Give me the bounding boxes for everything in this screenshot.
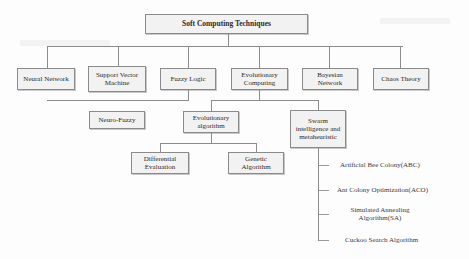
leaf-artificial-bee-colony: Artificial Bee Colony(ABC) [340, 161, 420, 169]
node-genetic-algorithm: Genetic Algorithm [228, 152, 284, 174]
list-tick [319, 214, 329, 215]
connector-line [160, 143, 161, 152]
leaf-cuckoo-search: Cuckoo Search Algorithm [345, 236, 418, 244]
node-differential-evaluation: Differential Evaluation [131, 152, 189, 174]
connector-line [188, 90, 189, 100]
connector-line [47, 46, 48, 68]
node-swarm-intelligence: Swarm intelligence and metaheuristic [290, 110, 346, 148]
node-chaos-theory: Chaos Theory [373, 68, 429, 90]
connector-line [188, 46, 189, 68]
background-text-fragment [380, 18, 450, 24]
node-evolutionary-computing: Evolutionary Computing [231, 68, 288, 90]
connector-line [400, 46, 401, 68]
connector-line [329, 46, 330, 68]
connector-line [118, 46, 119, 68]
list-tick [319, 240, 329, 241]
connector-line [47, 100, 189, 101]
connector-line [256, 143, 257, 152]
node-fuzzy-logic: Fuzzy Logic [160, 68, 216, 90]
list-tick [319, 190, 329, 191]
connector-line [160, 143, 256, 144]
node-support-vector-machine: Support Vector Machine [88, 66, 146, 92]
soft-computing-diagram: Soft Computing Techniques Neural Network… [0, 0, 469, 259]
list-tick [319, 165, 329, 166]
connector-line [211, 100, 319, 101]
connector-line [211, 100, 212, 111]
leaf-ant-colony-optimization: Ant Colony Optimization(ACO) [337, 186, 428, 194]
node-evolutionary-algorithm: Evolutionary algorithm [183, 111, 239, 133]
connector-line [228, 34, 229, 46]
connector-line [318, 148, 319, 241]
connector-line [259, 90, 260, 100]
node-neural-network: Neural Network [17, 68, 75, 90]
connector-line [259, 46, 260, 68]
node-bayesian-network: Bayesian Network [302, 68, 358, 90]
node-neuro-fuzzy: Neuro-Fuzzy [89, 111, 145, 129]
connector-line [318, 100, 319, 110]
leaf-simulated-annealing: Simulated Annealing Algorithm(SA) [340, 206, 420, 222]
node-root: Soft Computing Techniques [145, 14, 308, 34]
connector-line [211, 133, 212, 143]
connector-line [47, 46, 403, 47]
